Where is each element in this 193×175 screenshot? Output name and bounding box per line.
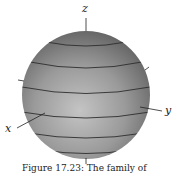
z-axis-label: z bbox=[82, 2, 88, 15]
sphere-figure bbox=[0, 0, 193, 175]
left-axis-stub bbox=[18, 80, 24, 81]
x-axis-label: x bbox=[5, 122, 11, 135]
figure-caption: Figure 17.23: The family of bbox=[22, 163, 182, 175]
right-axis-stub bbox=[145, 67, 149, 70]
sphere-surface bbox=[22, 31, 150, 159]
y-axis-label: y bbox=[165, 104, 171, 117]
